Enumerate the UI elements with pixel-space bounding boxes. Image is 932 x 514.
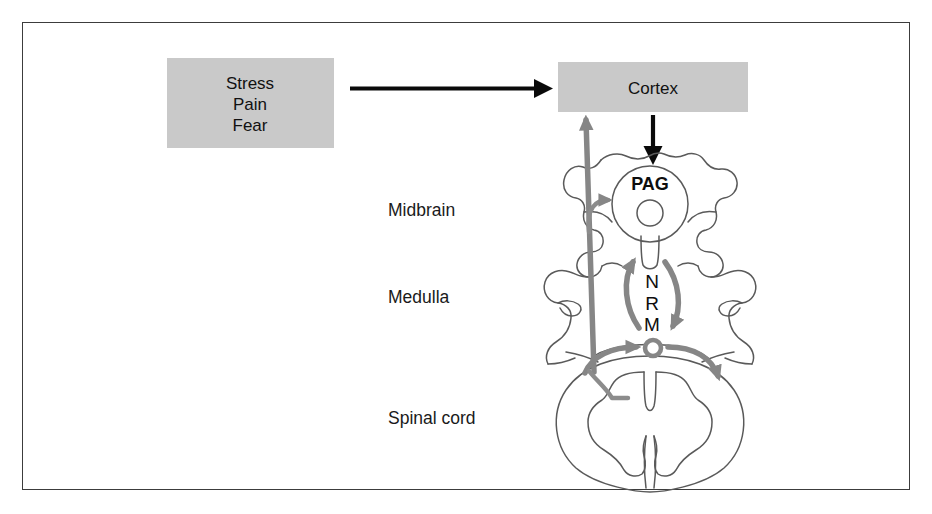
pag-label: PAG [631, 174, 669, 194]
cerebral-aqueduct-circle [637, 200, 663, 226]
medulla-outline-left-upper [544, 270, 589, 364]
nrm-letter-m: M [644, 314, 660, 335]
stimulus-label-pain: Pain [233, 95, 267, 114]
nrm-letter-n: N [645, 271, 659, 292]
diagram-canvas: Stress Pain Fear Cortex PAG [0, 0, 932, 514]
medulla-outline-right-upper [711, 270, 756, 364]
cortex-label: Cortex [628, 79, 679, 98]
midbrain-label: Midbrain [388, 200, 455, 220]
spinal-cord-label: Spinal cord [388, 408, 476, 428]
nrm-nucleus-circle [645, 340, 661, 356]
gray-matter-left [588, 372, 646, 476]
midbrain-notch-left [602, 263, 622, 266]
midbrain-outline-left [564, 160, 604, 277]
figure-root: Stress Pain Fear Cortex PAG [0, 0, 932, 514]
arrow-nrm-to-pag [626, 262, 639, 328]
medulla-taper-left [548, 358, 575, 364]
pag-structure: PAG [612, 166, 688, 269]
dorsal-median-septum [644, 372, 656, 411]
cortex-box: Cortex [558, 62, 748, 112]
nrm-structure: N R M [644, 271, 661, 356]
nrm-letter-r: R [645, 293, 659, 314]
stimulus-label-stress: Stress [226, 74, 274, 93]
medulla-label: Medulla [388, 287, 450, 307]
midbrain-notch-right [678, 263, 698, 266]
arrow-ascending-spinal-to-cortex [586, 120, 594, 372]
arrow-pag-to-nrm [665, 262, 678, 326]
stimulus-label-fear: Fear [233, 116, 268, 135]
gray-matter-right [654, 372, 712, 476]
medulla-taper-right [725, 358, 752, 364]
stimulus-box: Stress Pain Fear [167, 58, 334, 148]
midbrain-inner-right [688, 211, 716, 222]
